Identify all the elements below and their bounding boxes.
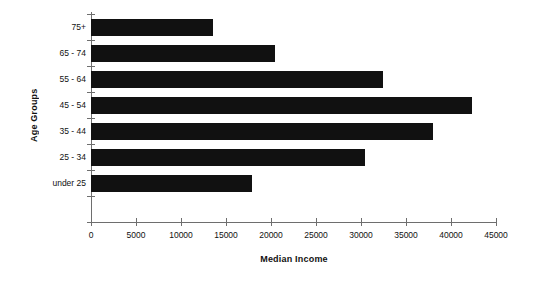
bar-55-64 [91,71,383,88]
bar-65-74 [91,45,275,62]
x-axis-tick-mark [451,218,452,226]
bar-45-54 [91,97,472,114]
bar-35-44 [91,123,433,140]
y-axis-tick-mark [87,14,95,15]
bar-under-25 [91,175,252,192]
x-axis-title: Median Income [91,254,497,264]
y-axis-tick-label: under 25 [34,178,86,188]
y-axis-tick-label: 25 - 34 [34,152,86,162]
bar-chart: Age Groups 75+65 - 7455 - 6445 - 5435 - … [0,0,539,284]
y-axis-tick-mark [87,196,95,197]
y-axis-tick-labels: 75+65 - 7455 - 6445 - 5435 - 4425 - 34un… [36,14,86,222]
x-axis-tick-mark [91,218,92,226]
bar-75 [91,19,213,36]
y-axis-tick-mark [87,144,95,145]
x-axis-tick-mark [361,218,362,226]
x-axis-tick-mark [496,218,497,226]
x-axis-tick-labels: 0500010000150002000025000300003500040000… [0,230,539,244]
x-axis-tick-mark [136,218,137,226]
x-axis-tick-mark [181,218,182,226]
x-axis-line [91,222,497,223]
x-axis-tick-mark [271,218,272,226]
y-axis-tick-mark [87,66,95,67]
x-axis-tick-mark [316,218,317,226]
y-axis-tick-mark [87,40,95,41]
y-axis-tick-mark [87,92,95,93]
y-axis-tick-mark [87,118,95,119]
x-axis-tick-label: 45000 [466,230,526,241]
y-axis-tick-label: 55 - 64 [34,74,86,84]
x-axis-tick-mark [226,218,227,226]
y-axis-tick-label: 65 - 74 [34,48,86,58]
plot-area [91,14,496,222]
y-axis-tick-label: 75+ [34,22,86,32]
bar-25-34 [91,149,365,166]
y-axis-tick-label: 35 - 44 [34,126,86,136]
y-axis-tick-label: 45 - 54 [34,100,86,110]
x-axis-tick-mark [406,218,407,226]
y-axis-tick-mark [87,170,95,171]
